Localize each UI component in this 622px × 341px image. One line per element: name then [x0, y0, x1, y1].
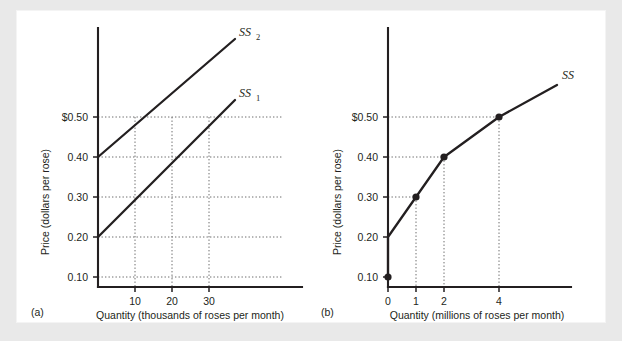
- panel-a-ss2-label-text: SS: [239, 25, 251, 39]
- data-point-4-0.50: [495, 113, 502, 120]
- panel-a-gridlines-horizontal: [98, 117, 283, 277]
- panel-a-ytick-030: 0.30: [68, 191, 89, 203]
- panel-b-xtick-2: 2: [441, 295, 447, 307]
- panel-a-xtick-20: 20: [166, 295, 178, 307]
- panel-b-ytick-020: 0.20: [358, 231, 379, 243]
- panel-b-ss-label: SS: [562, 68, 574, 82]
- panel-b-caption: (b): [321, 306, 334, 318]
- panel-a-ss1-label-subscript: 1: [256, 93, 260, 103]
- panel-a-ytick-020: 0.20: [68, 231, 89, 243]
- figure-plate: $0.50 0.40 0.30 0.20 0.10 10 20 30 Price…: [17, 11, 605, 322]
- data-point-0-0.10: [384, 273, 391, 280]
- panel-a-gridlines-vertical: [135, 117, 209, 286]
- supply-curve-ss: [388, 85, 557, 277]
- panel-a-ytick-050: $0.50: [62, 111, 88, 123]
- panel-a-plot: $0.50 0.40 0.30 0.20 0.10 10 20 30 Price…: [17, 11, 311, 322]
- panel-a-ss2-label-subscript: 2: [256, 32, 260, 42]
- panel-b-ytick-050: $0.50: [352, 111, 378, 123]
- supply-curve-ss1: [98, 100, 235, 237]
- panel-a-ytick-010: 0.10: [68, 271, 89, 283]
- figure-root: $0.50 0.40 0.30 0.20 0.10 10 20 30 Price…: [0, 0, 622, 341]
- panel-a-xtick-30: 30: [203, 295, 215, 307]
- panel-b-xtick-1: 1: [413, 295, 419, 307]
- supply-curve-ss2: [98, 39, 235, 157]
- panel-a-ss1-label-text: SS: [239, 86, 251, 100]
- panel-b-plot: $0.50 0.40 0.30 0.20 0.10 0 1 2 4 Price …: [311, 11, 605, 322]
- panel-b-gridlines-vertical: [416, 117, 499, 286]
- panel-a-caption: (a): [31, 306, 44, 318]
- panel-b-ytick-010: 0.10: [358, 271, 379, 283]
- panel-a: $0.50 0.40 0.30 0.20 0.10 10 20 30 Price…: [17, 11, 311, 322]
- panel-b-xtick-0: 0: [385, 295, 391, 307]
- panel-a-ytick-040: 0.40: [68, 151, 89, 163]
- panel-b-x-axis-title: Quantity (millions of roses per month): [390, 309, 564, 321]
- panel-b-ytick-040: 0.40: [358, 151, 379, 163]
- panel-a-xtick-10: 10: [129, 295, 141, 307]
- panel-b: $0.50 0.40 0.30 0.20 0.10 0 1 2 4 Price …: [311, 11, 605, 322]
- panel-a-ss2-label: SS 2: [239, 25, 260, 42]
- panel-b-y-axis-title: Price (dollars per rose): [331, 149, 343, 255]
- panel-b-xtick-4: 4: [496, 295, 502, 307]
- panel-a-ss1-label: SS 1: [239, 86, 260, 103]
- panel-a-y-axis-title: Price (dollars per rose): [39, 149, 51, 255]
- panel-b-ytick-030: 0.30: [358, 191, 379, 203]
- panel-a-x-axis-title: Quantity (thousands of roses per month): [96, 309, 284, 321]
- data-point-2-0.40: [440, 153, 447, 160]
- data-point-1-0.30: [412, 193, 419, 200]
